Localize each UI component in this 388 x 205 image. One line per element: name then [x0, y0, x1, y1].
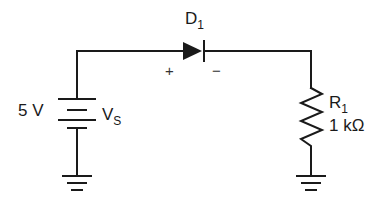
source-value-label: 5 V [18, 101, 44, 120]
ground-icon-source [63, 176, 91, 190]
circuit-diagram: D1 + − 5 V VS R1 1 kΩ [0, 0, 388, 205]
resistor-value: 1 kΩ [329, 116, 364, 135]
diode-d1 [183, 41, 204, 61]
diode-anode-sign: + [165, 62, 174, 79]
diode-anode-triangle [183, 42, 202, 60]
battery-source [59, 99, 95, 176]
resistor-r1 [301, 88, 322, 176]
resistor-label: R1 [329, 93, 348, 116]
ground-icon-resistor [297, 176, 325, 190]
diode-label: D1 [185, 9, 204, 32]
source-name-label: VS [102, 105, 121, 128]
diode-cathode-sign: − [212, 62, 221, 79]
